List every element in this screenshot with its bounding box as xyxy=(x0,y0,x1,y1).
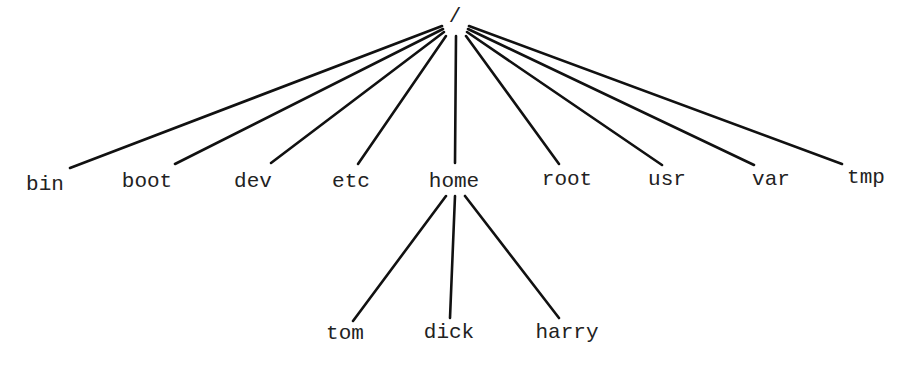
node-bin: bin xyxy=(26,173,64,196)
edge-home-dick xyxy=(450,196,455,318)
node-boot: boot xyxy=(122,170,172,193)
edge-root-etc xyxy=(358,36,446,164)
node-dick: dick xyxy=(424,321,474,344)
node-etc: etc xyxy=(332,170,370,193)
node-root: / xyxy=(449,5,462,28)
node-harry: harry xyxy=(535,321,598,344)
node-dev: dev xyxy=(234,170,272,193)
node-usr: usr xyxy=(648,168,686,191)
node-home: home xyxy=(429,170,479,193)
edge-root-boot xyxy=(175,29,443,164)
edge-home-tom xyxy=(353,196,446,321)
filesystem-tree-diagram: /binbootdevetchomerootusrvartmptomdickha… xyxy=(0,0,911,366)
edge-root-dev xyxy=(271,32,444,163)
edge-root-usr xyxy=(467,32,662,165)
node-tom: tom xyxy=(326,322,364,345)
edge-root-tmp xyxy=(469,26,842,164)
edge-root-home xyxy=(455,36,456,163)
edge-home-harry xyxy=(465,196,559,318)
node-var: var xyxy=(752,168,790,191)
node-tmp: tmp xyxy=(847,166,885,189)
node-rootdir: root xyxy=(542,168,592,191)
edge-root-bin xyxy=(70,26,442,168)
